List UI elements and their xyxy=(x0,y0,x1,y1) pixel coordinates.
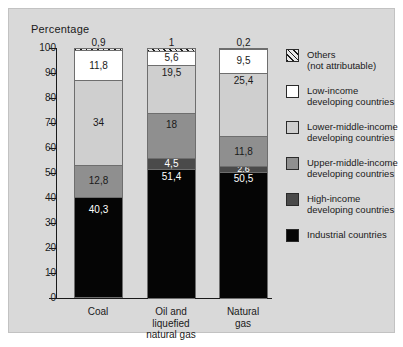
legend-others-line2: (not attributable) xyxy=(307,60,376,71)
y-tick-mark-0 xyxy=(49,298,56,299)
legend-label-lower-middle-income: Lower-middle-income developing countries xyxy=(307,121,398,143)
bar-coal-seg-upper: 12,8 xyxy=(75,166,122,198)
legend-item-low-income[interactable]: Low-income developing countries xyxy=(286,85,398,107)
legend-industrial-line1: Industrial countries xyxy=(307,229,387,240)
bar-coal-upper-value: 12,8 xyxy=(89,176,108,186)
legend-lower-line2: developing countries xyxy=(307,132,398,143)
legend-lower-line1: Lower-middle-income xyxy=(307,121,398,132)
bar-coal-lower-value: 34 xyxy=(93,118,104,128)
bar-gas-low-value: 9,5 xyxy=(237,56,251,66)
legend-swatch-others-icon xyxy=(286,49,299,62)
legend-item-lower-middle-income[interactable]: Lower-middle-income developing countries xyxy=(286,121,398,143)
bar-gas-seg-upper: 11,8 xyxy=(220,137,267,167)
legend-high-line2: developing countries xyxy=(307,204,394,215)
bar-coal-seg-low: 11,8 xyxy=(75,51,122,81)
bar-gas-lower-value: 25,4 xyxy=(234,76,253,86)
bar-coal[interactable]: 11,8 34 12,8 40,3 xyxy=(74,48,123,298)
bar-oil-seg-lower: 19,5 xyxy=(148,66,195,115)
category-gas-line2: gas xyxy=(200,318,286,330)
legend-label-industrial: Industrial countries xyxy=(307,229,387,240)
plot-area: 100 90 80 70 60 50 40 30 20 10 xyxy=(56,48,271,298)
category-label-natural-gas: Natural gas xyxy=(200,306,286,329)
legend-upper-line1: Upper-middle-income xyxy=(307,157,398,168)
legend-low-line1: Low-income xyxy=(307,85,394,96)
legend-label-high-income: High-income developing countries xyxy=(307,193,394,215)
bar-oil-lng[interactable]: 5,6 19,5 18 4,5 51,4 xyxy=(147,48,196,298)
legend-others-line1: Others xyxy=(307,49,376,60)
y-tick-mark-20 xyxy=(49,248,56,249)
bar-oil-low-value: 5,6 xyxy=(165,53,179,63)
bar-gas-seg-industrial: 50,5 xyxy=(220,173,267,299)
legend-swatch-lower-middle-icon xyxy=(286,121,299,134)
bar-coal-low-value: 11,8 xyxy=(89,61,108,71)
bar-oil-industrial-value: 51,4 xyxy=(162,172,181,182)
bar-gas-upper-value: 11,8 xyxy=(234,147,253,157)
bar-oil-seg-industrial: 51,4 xyxy=(148,170,195,299)
category-oil-line3: natural gas xyxy=(128,329,214,341)
bar-gas-industrial-value: 50,5 xyxy=(234,174,253,184)
legend-high-line1: High-income xyxy=(307,193,394,204)
bar-oil-upper-value: 18 xyxy=(166,120,177,130)
bar-coal-seg-lower: 34 xyxy=(75,81,122,166)
legend-swatch-high-income-icon xyxy=(286,193,299,206)
y-tick-mark-40 xyxy=(49,198,56,199)
y-axis-line xyxy=(56,48,57,299)
legend-swatch-industrial-icon xyxy=(286,229,299,242)
category-gas-line1: Natural xyxy=(200,306,286,318)
y-axis-title: Percentage xyxy=(31,23,89,35)
bar-oil-lower-value: 19,5 xyxy=(162,68,181,78)
legend: Others (not attributable) Low-income dev… xyxy=(286,49,398,256)
legend-label-upper-middle-income: Upper-middle-income developing countries xyxy=(307,157,398,179)
legend-label-others: Others (not attributable) xyxy=(307,49,376,71)
legend-label-low-income: Low-income developing countries xyxy=(307,85,394,107)
bar-oil-others-label: 1 xyxy=(147,37,196,48)
legend-low-line2: developing countries xyxy=(307,96,394,107)
bar-coal-seg-industrial: 40,3 xyxy=(75,198,122,299)
y-tick-mark-100 xyxy=(49,48,56,49)
legend-item-high-income[interactable]: High-income developing countries xyxy=(286,193,398,215)
bar-oil-seg-low: 5,6 xyxy=(148,52,195,66)
legend-item-upper-middle-income[interactable]: Upper-middle-income developing countries xyxy=(286,157,398,179)
y-tick-mark-30 xyxy=(49,223,56,224)
y-tick-mark-90 xyxy=(49,73,56,74)
y-tick-mark-60 xyxy=(49,148,56,149)
legend-item-others[interactable]: Others (not attributable) xyxy=(286,49,398,71)
bar-oil-high-value: 4,5 xyxy=(165,159,179,169)
bar-coal-industrial-value: 40,3 xyxy=(89,205,108,215)
bar-gas-seg-lower: 25,4 xyxy=(220,74,267,138)
legend-upper-line2: developing countries xyxy=(307,168,398,179)
legend-item-industrial[interactable]: Industrial countries xyxy=(286,229,398,242)
y-tick-mark-80 xyxy=(49,98,56,99)
y-tick-mark-10 xyxy=(49,273,56,274)
legend-swatch-upper-middle-icon xyxy=(286,157,299,170)
bar-oil-seg-high: 4,5 xyxy=(148,159,195,170)
legend-swatch-low-income-icon xyxy=(286,85,299,98)
bar-oil-seg-upper: 18 xyxy=(148,114,195,159)
bar-natural-gas[interactable]: 9,5 25,4 11,8 2,6 50,5 xyxy=(219,48,268,298)
y-tick-mark-50 xyxy=(49,173,56,174)
y-tick-mark-70 xyxy=(49,123,56,124)
bar-gas-seg-low: 9,5 xyxy=(220,50,267,74)
bar-coal-others-label: 0,9 xyxy=(74,37,123,48)
chart-panel: Percentage 100 90 80 70 60 50 40 30 xyxy=(8,8,395,333)
bar-gas-others-label: 0,2 xyxy=(219,37,268,48)
